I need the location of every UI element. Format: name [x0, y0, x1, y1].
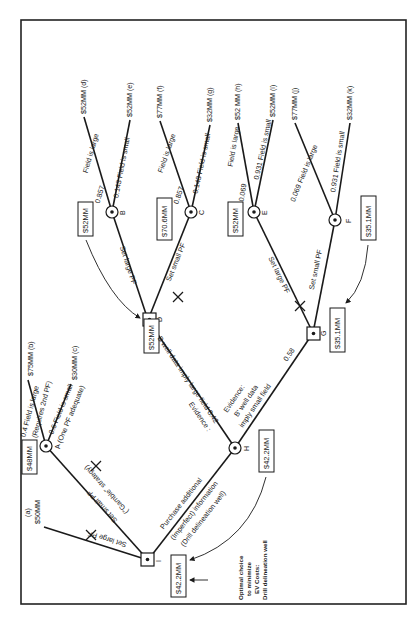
svg-text:EV Costs:: EV Costs: — [253, 565, 260, 594]
value-box-d: $52MM — [144, 319, 159, 353]
chance-node-c — [185, 206, 197, 218]
svg-text:$42.2MM: $42.2MM — [262, 438, 271, 469]
label-b-large-p: 0.857 — [93, 184, 107, 204]
value-box-i: $42.2MM — [171, 555, 186, 597]
svg-text:$52MM: $52MM — [81, 208, 90, 233]
svg-text:$42.2MM: $42.2MM — [174, 563, 183, 594]
node-label-e: E — [261, 210, 268, 215]
outcome-j: $77MM (j) — [290, 88, 299, 120]
chance-node-f — [329, 214, 341, 226]
outcome-a-tag: (a) — [23, 508, 32, 517]
chance-node-b — [106, 206, 118, 218]
chance-node-e — [248, 206, 260, 218]
label-d-large: Set large PF — [118, 245, 139, 286]
branch-labels: Set large PF Set small PF ("Gamble" stra… — [18, 118, 346, 549]
decision-tree-diagram: I A H D G B C E F $42.2MM $48MM $42.2MM … — [0, 0, 413, 622]
svg-text:Optimal choice: Optimal choice — [237, 555, 244, 600]
svg-text:to minimize: to minimize — [245, 561, 252, 596]
svg-text:$70.6MM: $70.6MM — [160, 206, 169, 237]
node-label-f: F — [345, 219, 352, 223]
prune-x-icon — [173, 292, 183, 302]
label-e-large-p: 0.069 — [237, 183, 249, 202]
node-label-g: G — [320, 331, 327, 336]
label-f-large: 0.069 Field is large — [288, 143, 319, 203]
value-box-c: $70.6MM — [157, 198, 172, 240]
label-e-large: Field is large — [226, 126, 242, 168]
outcome-f: $77MM (f) — [155, 85, 164, 118]
outcome-e: $52MM (e) — [125, 82, 134, 117]
label-h-large-2: B well data imply large field 0.42 — [156, 334, 221, 424]
chance-node-h — [229, 442, 241, 454]
svg-text:Drill delineation well: Drill delineation well — [261, 540, 268, 600]
label-c-large-p: 0.857 — [171, 185, 185, 205]
svg-text:$35.1MM: $35.1MM — [333, 318, 342, 349]
node-label-i: I — [155, 560, 162, 562]
label-b-small: 0.143 Field is small — [111, 136, 132, 199]
value-box-h: $42.2MM — [259, 430, 274, 472]
prune-x-icon — [295, 301, 305, 311]
svg-text:$35.1MM: $35.1MM — [364, 206, 373, 237]
outcome-d: $52MM (d) — [79, 79, 88, 114]
label-d-small: Set small PF — [164, 241, 188, 283]
optimal-choice-note: Optimal choice to minimize EV Costs: Dri… — [237, 540, 268, 600]
outcome-g: $32MM (g) — [205, 87, 214, 122]
svg-text:$48MM: $48MM — [25, 446, 34, 471]
outcome-h: $52 MM (h) — [233, 83, 242, 120]
arrow-f-to-g — [346, 245, 368, 303]
value-box-g: $35.1MM — [330, 308, 345, 352]
label-c-large: Field is large — [156, 132, 178, 173]
decision-node-i — [141, 553, 154, 566]
value-box-b: $52MM — [78, 202, 93, 236]
value-box-e: $52MM — [228, 202, 243, 236]
node-label-c: C — [198, 210, 205, 215]
outcome-k: $32MM (k) — [345, 86, 354, 120]
label-c-small: 0.143 Field is small — [191, 132, 213, 194]
label-g-large: Set large PF — [266, 255, 292, 295]
label-g-small: Set small PF — [307, 248, 324, 290]
outcome-a: $50MM — [33, 500, 42, 524]
node-label-a: A — [54, 444, 61, 449]
outcome-c: $30MM (c) — [70, 346, 79, 380]
decision-node-g — [307, 327, 320, 340]
value-box-f: $35.1MM — [361, 196, 376, 240]
branch-i-purchase-info — [148, 448, 235, 560]
node-label-b: B — [119, 210, 126, 215]
label-b-large: Field is large — [81, 132, 101, 174]
svg-text:$52MM: $52MM — [147, 325, 156, 350]
node-label-h: H — [243, 446, 250, 451]
chance-node-a — [40, 440, 52, 452]
outcome-i: $52MM (i) — [268, 85, 277, 117]
value-box-a: $48MM — [22, 440, 37, 474]
outcome-b: $75MM (b) — [26, 341, 35, 376]
svg-text:$52MM: $52MM — [231, 208, 240, 233]
